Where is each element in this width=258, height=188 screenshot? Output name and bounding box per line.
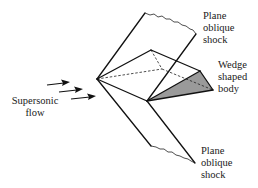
svg-text:oblique: oblique	[201, 157, 233, 168]
lower-shock-label: Plane oblique shock	[201, 145, 233, 180]
arrow-icon	[47, 80, 70, 87]
svg-text:oblique: oblique	[203, 22, 235, 33]
oblique-shock-diagram: Plane oblique shock Wedge shaped body Pl…	[0, 0, 258, 188]
svg-text:Wedge: Wedge	[218, 59, 247, 70]
flow-label: Supersonic flow	[12, 95, 59, 118]
wedge-label: Wedge shaped body	[218, 59, 248, 94]
svg-text:shock: shock	[201, 169, 226, 180]
upper-shock-label: Plane oblique shock	[203, 10, 235, 45]
svg-text:shock: shock	[203, 34, 228, 45]
svg-text:Plane: Plane	[203, 10, 227, 21]
svg-text:shaped: shaped	[218, 71, 248, 82]
svg-text:Plane: Plane	[201, 145, 225, 156]
svg-text:body: body	[218, 83, 240, 94]
arrow-icon	[71, 94, 96, 101]
wedge-body	[97, 50, 213, 101]
arrow-icon	[59, 87, 83, 94]
svg-text:Supersonic: Supersonic	[12, 95, 59, 106]
svg-text:flow: flow	[25, 107, 45, 118]
